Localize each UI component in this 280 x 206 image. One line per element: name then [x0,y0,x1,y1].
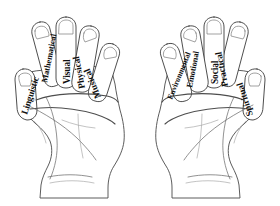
left-middle-label: Visual [62,59,72,84]
right-hand: Environmental Emotional Social Practical… [156,17,265,198]
left-hand: Linguistic Mathematical Visual Physical … [15,17,124,198]
hands-intelligences-diagram: Linguistic Mathematical Visual Physical … [0,0,280,206]
hands-illustration: Linguistic Mathematical Visual Physical … [0,0,280,206]
